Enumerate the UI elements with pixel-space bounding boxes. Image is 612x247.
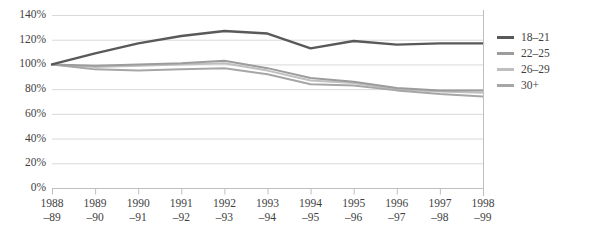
y-axis-tick-label: 120% — [2, 34, 46, 46]
legend-item[interactable]: 18–21 — [497, 31, 607, 44]
y-axis-tick-label: 20% — [2, 157, 46, 169]
y-axis-tick-label: 80% — [2, 83, 46, 95]
legend-item[interactable]: 22–25 — [497, 47, 607, 60]
y-axis-tick-label: 140% — [2, 9, 46, 21]
legend-item[interactable]: 26–29 — [497, 63, 607, 76]
y-axis-tick-label: 40% — [2, 133, 46, 145]
y-axis-tick-label: 60% — [2, 108, 46, 120]
line-chart: 140%120%100%80%60%40%20%0% 1988–891989–9… — [0, 0, 612, 247]
legend-item-label: 18–21 — [521, 32, 550, 44]
y-axis-tick-label: 100% — [2, 58, 46, 70]
legend-color-swatch — [497, 52, 514, 55]
legend-color-swatch — [497, 84, 514, 87]
gridlines — [52, 16, 483, 189]
x-axis-tick-label-line: 1998 — [453, 196, 512, 210]
x-axis-tick-label-line: –99 — [453, 210, 512, 224]
y-axis-tick-label: 0% — [2, 182, 46, 194]
legend-color-swatch — [497, 68, 514, 71]
series-line-30- — [52, 64, 483, 96]
series-line-18-21 — [52, 31, 483, 64]
x-axis: 1988–891989–901990–911991–921992–931993–… — [52, 196, 483, 242]
x-axis-tick-marks — [53, 189, 484, 195]
legend-item[interactable]: 30+ — [497, 79, 607, 92]
legend-item-label: 30+ — [521, 80, 539, 92]
legend-item-label: 22–25 — [521, 48, 550, 60]
legend-color-swatch — [497, 36, 514, 39]
legend: 18–2122–2526–2930+ — [497, 31, 607, 95]
legend-item-label: 26–29 — [521, 64, 550, 76]
x-axis-tick-label: 1998–99 — [453, 196, 512, 224]
series-lines — [52, 31, 483, 97]
